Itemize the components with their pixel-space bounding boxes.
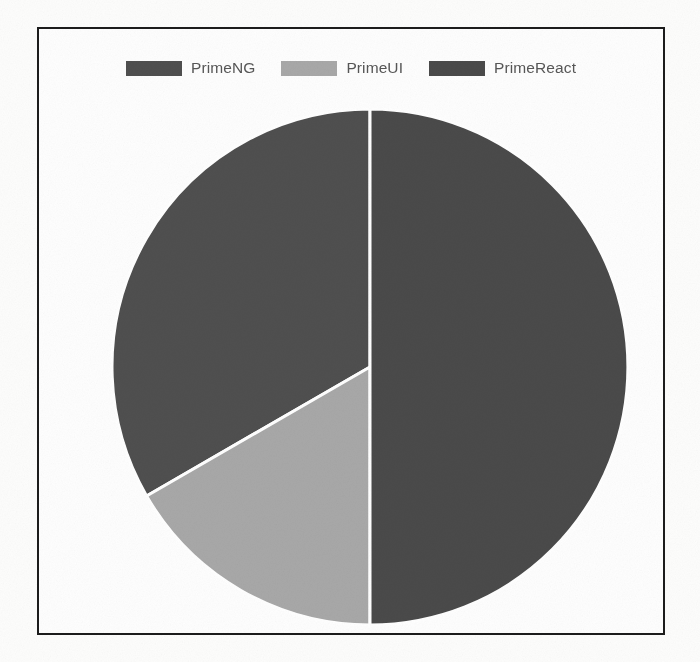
pie-chart-svg xyxy=(39,29,667,637)
pie-chart-plot-area xyxy=(39,29,663,633)
pie-slice-primereact[interactable] xyxy=(370,109,628,625)
chart-frame: PrimeNG PrimeUI PrimeReact xyxy=(37,27,665,635)
pie-slice-group xyxy=(112,109,628,625)
